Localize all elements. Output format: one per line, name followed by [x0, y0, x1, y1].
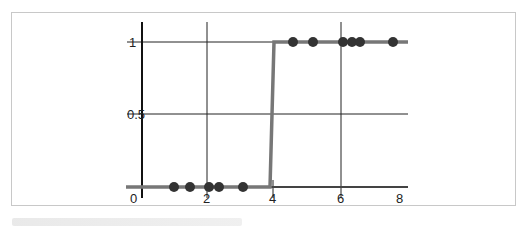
y-tick-05: 0.5 — [127, 107, 145, 122]
step-chart: 1 0.5 0 2 4 6 8 — [0, 0, 530, 234]
x-tick-4: 4 — [269, 191, 276, 206]
x-tick-8: 8 — [396, 191, 403, 206]
point — [214, 182, 224, 192]
x-tick-6: 6 — [337, 191, 344, 206]
point — [169, 182, 179, 192]
grid — [127, 22, 408, 198]
caption-blurred — [12, 218, 242, 226]
point — [288, 37, 298, 47]
point — [338, 37, 348, 47]
point — [355, 37, 365, 47]
x-tick-0: 0 — [130, 191, 137, 206]
point — [185, 182, 195, 192]
x-tick-2: 2 — [203, 191, 210, 206]
y-tick-1: 1 — [129, 35, 136, 50]
point — [308, 37, 318, 47]
point — [388, 37, 398, 47]
point — [238, 182, 248, 192]
